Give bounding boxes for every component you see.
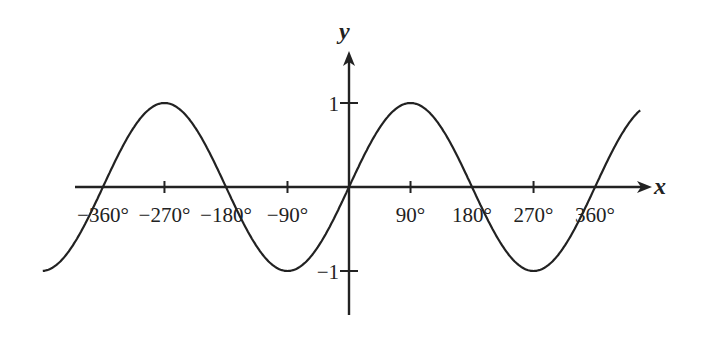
y-tick-label: 1 <box>329 92 340 116</box>
x-tick-label: −90° <box>267 203 308 227</box>
x-tick-label: 180° <box>452 203 492 227</box>
x-tick-label: 270° <box>514 203 554 227</box>
y-tick-label: −1 <box>317 260 339 284</box>
x-tick-label: 360° <box>575 203 615 227</box>
sine-graph: x y −360°−270°−180°−90°90°180°270°360°1−… <box>0 0 705 343</box>
y-axis-label: y <box>336 18 350 44</box>
x-tick-label: −270° <box>139 203 191 227</box>
x-tick-label: 90° <box>396 203 425 227</box>
x-axis-label: x <box>653 173 666 199</box>
axes: x y <box>75 18 666 315</box>
x-tick-label: −180° <box>200 203 252 227</box>
x-tick-label: −360° <box>77 203 129 227</box>
